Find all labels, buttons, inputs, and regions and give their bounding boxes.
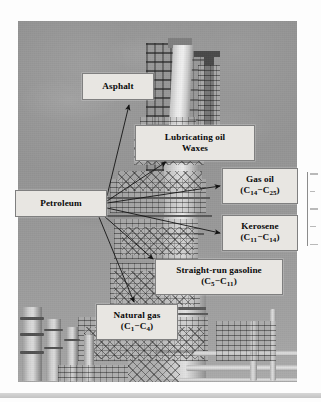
callout-petroleum: Petroleum [15, 190, 107, 217]
callout-kerosene-label: Kerosene [241, 221, 278, 232]
kerosene-dash: −C [257, 232, 269, 242]
margin-text-line-4 [310, 226, 316, 228]
natural-gas-dash: −C [134, 321, 146, 331]
callout-kerosene: Kerosene (C11−C14) [222, 215, 298, 251]
straight-run-dash: −C [215, 276, 227, 286]
callout-natural-gas: Natural gas (C1−C4) [96, 304, 178, 340]
margin-text-line-1 [310, 173, 318, 175]
callout-natural-gas-label: Natural gas [114, 310, 161, 321]
straight-run-sub-high: 11 [227, 279, 234, 287]
callout-gas-oil-carbon-range: (C14−C25) [240, 185, 280, 199]
gas-oil-dash: −C [257, 185, 269, 195]
callout-straight-run-carbon-range: (C5−C11) [201, 276, 237, 290]
page-margin-text-fragments [310, 173, 321, 245]
callout-gas-oil-label: Gas oil [246, 174, 274, 185]
callout-straight-run-gasoline: Straight-run gasoline (C5−C11) [155, 259, 283, 295]
callout-natural-gas-carbon-range: (C1−C4) [121, 321, 153, 335]
natural-gas-range-close: ) [150, 321, 153, 331]
margin-text-line-2 [310, 191, 315, 193]
straight-run-range-open: (C [201, 276, 211, 286]
callout-lubricating-oil-label: Lubricating oil [165, 132, 225, 143]
gas-oil-sub-high: 25 [269, 188, 276, 196]
callout-asphalt-label: Asphalt [102, 81, 133, 92]
callout-kerosene-carbon-range: (C11−C14) [240, 232, 279, 246]
kerosene-range-close: ) [276, 232, 279, 242]
callout-petroleum-label: Petroleum [40, 198, 82, 209]
callout-waxes-label: Waxes [182, 143, 208, 154]
callout-lubricating-oil-waxes: Lubricating oil Waxes [135, 125, 255, 161]
page-margin-rule [307, 172, 308, 246]
straight-run-range-close: ) [234, 276, 237, 286]
margin-text-line-5 [310, 244, 318, 246]
margin-text-line-3 [310, 208, 318, 210]
kerosene-range-open: (C [240, 232, 250, 242]
callout-asphalt: Asphalt [82, 73, 154, 100]
page-bottom-band [0, 393, 321, 398]
figure-page: Asphalt Lubricating oil Waxes Gas oil (C… [0, 0, 321, 402]
callout-gas-oil: Gas oil (C14−C25) [222, 168, 298, 204]
natural-gas-range-open: (C [121, 321, 131, 331]
gas-oil-range-open: (C [240, 185, 250, 195]
callout-straight-run-label: Straight-run gasoline [176, 265, 262, 276]
gas-oil-range-close: ) [277, 185, 280, 195]
